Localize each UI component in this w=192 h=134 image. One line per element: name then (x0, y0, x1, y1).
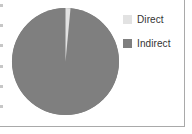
chart-legend: Direct Indirect (123, 9, 185, 57)
panel-right-border (184, 0, 185, 127)
legend-swatch-icon-direct (123, 15, 132, 24)
pie-slices[interactable] (12, 8, 119, 115)
legend-item-direct[interactable]: Direct (123, 9, 185, 29)
edge-tick-mark (0, 65, 3, 68)
edge-tick-mark (0, 85, 3, 88)
chart-plot-area (6, 0, 126, 126)
panel-bottom-border (0, 126, 184, 127)
edge-tick-mark (0, 4, 3, 7)
edge-tick-mark (0, 105, 3, 108)
legend-label-direct: Direct (137, 14, 164, 25)
edge-tick-mark (0, 44, 3, 47)
pie-chart-panel: Direct Indirect (0, 0, 192, 134)
legend-item-indirect[interactable]: Indirect (123, 33, 185, 53)
pie-chart[interactable] (12, 8, 119, 115)
cropped-edge-artifacts (0, 4, 5, 108)
legend-swatch-icon-indirect (123, 39, 132, 48)
legend-label-indirect: Indirect (137, 38, 171, 49)
edge-tick-mark (0, 24, 3, 27)
